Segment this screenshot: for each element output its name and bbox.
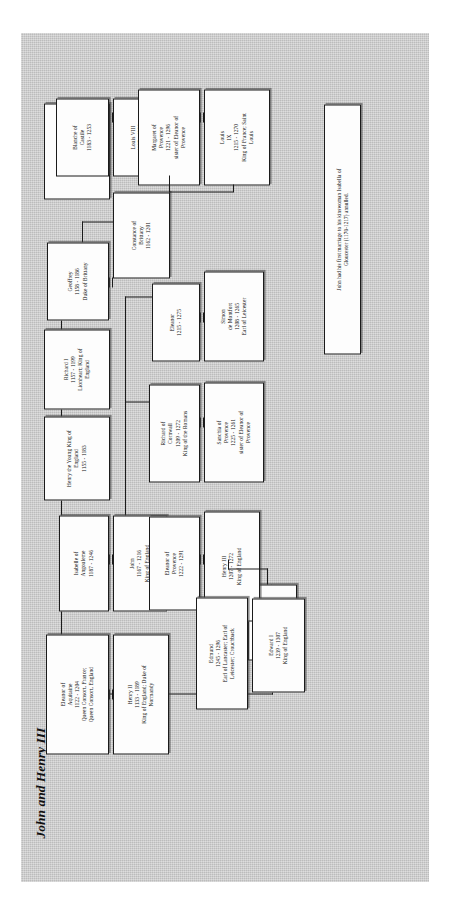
node-margaret-provence[interactable]: Margaret of Provence 1221 - 1296 sister … (138, 89, 200, 185)
node-edmund[interactable]: Edmund 1245 - 1296 Earl of Lancaster; Ea… (196, 597, 248, 709)
node-constance[interactable]: Constance of Brittany 1162 - 1201 (113, 192, 170, 278)
descent-line-blanche-top (228, 559, 229, 569)
node-simon-de-montfort[interactable]: Simon de Montfort 1208 - 1265 Earl of Le… (204, 271, 264, 361)
node-margaret-provence-text: Margaret of Provence 1221 - 1296 sister … (151, 115, 187, 158)
marriage-link-geoffrey-constance (109, 277, 113, 287)
node-eleanor-provence-text: Eleanor of Provence 1222 - 1291 (164, 549, 185, 576)
node-henry-young-king[interactable]: Henry the Young King of England 1155 - 1… (44, 416, 110, 500)
node-constance-text: Constance of Brittany 1162 - 1201 (131, 220, 152, 250)
chart-paper: John and Henry III (21, 33, 429, 882)
node-louis9[interactable]: Louis IX 1215 - 1270 King of France; Sai… (204, 89, 270, 185)
node-footnote[interactable]: John had his first marriage to his kinsw… (324, 104, 361, 354)
node-isabelle-text: Isabelle of Angouleme 1187 - 1246 (73, 550, 94, 577)
node-sanchia[interactable]: Sanchia of Provence 1225 - 1261 sister o… (204, 382, 264, 482)
node-henry2[interactable]: Henry II 1133 - 1189 King of England; Du… (113, 634, 169, 754)
genealogy-canvas: John and Henry III (21, 33, 429, 882)
node-eleanor-simon-wife-text: Eleanor 1215 - 1275 (169, 308, 183, 335)
descent-line-louis9-riser (169, 191, 233, 192)
node-eleanor-aquitaine-text: Eleanor of Aquitaine 1122 - 1204 Queen C… (60, 666, 96, 721)
node-geoffrey-text: Geoffrey 1158 - 1186 Duke of Brittany (67, 262, 88, 300)
node-edward1-text: Edward I 1239 - 1307 King of England (268, 626, 289, 663)
node-john-text: John 1167 - 1216 King of England (129, 544, 150, 581)
node-henry3-text: Henry III 1207 - 1272 King of England (221, 547, 242, 584)
node-richard-cornwall-text: Richard of Cornwall 1209 - 1272 King of … (160, 410, 189, 455)
descent-line-louis9-in (233, 184, 234, 192)
node-eleanor-provence[interactable]: Eleanor of Provence 1222 - 1291 (149, 516, 200, 610)
descent-line-eleanorcastile-to-blanche (267, 568, 268, 584)
node-blanche-text: Blanche of Castile 1183 - 1253 (72, 124, 93, 151)
descent-line-blanche-riser (228, 568, 268, 569)
node-henry2-text: Henry II 1133 - 1189 King of England; Du… (127, 665, 156, 724)
node-geoffrey[interactable]: Geoffrey 1158 - 1186 Duke of Brittany (47, 242, 109, 320)
node-richard1[interactable]: Richard I 1157 - 1199 Lionheart; King of… (44, 329, 110, 409)
node-isabelle[interactable]: Isabelle of Angouleme 1187 - 1246 (59, 515, 109, 611)
node-blanche[interactable]: Blanche of Castile 1183 - 1253 (56, 98, 109, 176)
node-sanchia-text: Sanchia of Provence 1225 - 1261 sister o… (216, 410, 252, 453)
descent-line-louis8-kid (169, 175, 170, 192)
node-richard1-text: Richard I 1157 - 1199 Lionheart; King of… (63, 348, 92, 390)
node-simon-de-montfort-text: Simon de Montfort 1208 - 1265 Earl of Le… (220, 297, 249, 335)
node-edward1[interactable]: Edward I 1239 - 1307 King of England (252, 598, 305, 692)
descent-line-bus-johnkids (125, 296, 126, 517)
node-footnote-text: John had his first marriage to his kinsw… (336, 168, 350, 290)
node-richard-cornwall[interactable]: Richard of Cornwall 1209 - 1272 King of … (149, 384, 200, 482)
node-eleanor-simon-wife[interactable]: Eleanor 1215 - 1275 (152, 283, 200, 361)
node-henry-young-king-text: Henry the Young King of England 1155 - 1… (66, 430, 87, 487)
node-louis9-text: Louis IX 1215 - 1270 King of France; Sai… (219, 113, 255, 162)
scanned-page: John and Henry III (0, 0, 450, 901)
node-edmund-text: Edmund 1245 - 1296 Earl of Lancaster; Ea… (208, 624, 237, 681)
node-eleanor-aquitaine[interactable]: Eleanor of Aquitaine 1122 - 1204 Queen C… (46, 634, 109, 754)
